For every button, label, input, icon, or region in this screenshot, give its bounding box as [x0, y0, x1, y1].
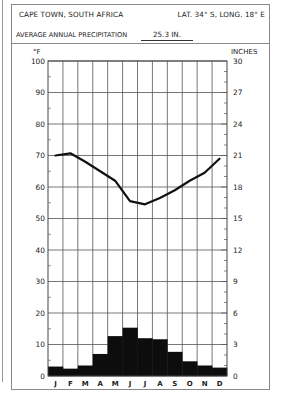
fahrenheit-tick-label: 90 — [36, 88, 46, 97]
month-label: J — [143, 380, 147, 388]
fahrenheit-tick-label: 50 — [36, 214, 46, 223]
fahrenheit-tick-label: 10 — [36, 340, 46, 349]
fahrenheit-tick-label: 30 — [36, 277, 46, 286]
fahrenheit-tick-label: 20 — [36, 309, 46, 318]
month-label: F — [68, 380, 73, 388]
precipitation-bar — [167, 352, 182, 376]
fahrenheit-tick-label: 40 — [36, 246, 46, 255]
climate-chart: 0102030405060708090100036912151821242730… — [0, 0, 283, 402]
inches-tick-label: 0 — [233, 372, 238, 381]
inches-tick-label: 24 — [233, 120, 243, 129]
fahrenheit-tick-label: 80 — [36, 120, 46, 129]
precipitation-bar — [93, 354, 108, 376]
precipitation-bar — [123, 328, 138, 376]
fahrenheit-tick-label: 0 — [40, 372, 45, 381]
inches-tick-label: 21 — [233, 151, 243, 160]
precipitation-bars — [48, 328, 227, 376]
inches-tick-label: 6 — [233, 309, 238, 318]
precipitation-bar — [182, 361, 197, 376]
precipitation-bar — [138, 338, 153, 376]
inches-tick-label: 18 — [233, 183, 243, 192]
fahrenheit-tick-label: 70 — [36, 151, 46, 160]
month-label: M — [112, 380, 119, 388]
inches-tick-label: 9 — [233, 277, 238, 286]
inches-tick-label: 30 — [233, 57, 243, 66]
precipitation-bar — [63, 369, 78, 376]
inches-tick-label: 12 — [233, 246, 242, 255]
inches-tick-label: 27 — [233, 88, 243, 97]
month-label: A — [97, 380, 103, 388]
month-label: N — [202, 380, 208, 388]
month-label: A — [157, 380, 163, 388]
month-label: J — [128, 380, 132, 388]
month-label: S — [172, 380, 177, 388]
precipitation-bar — [212, 368, 227, 376]
precipitation-bar — [152, 339, 167, 376]
inches-tick-label: 3 — [233, 340, 238, 349]
precipitation-bar — [48, 367, 63, 376]
precipitation-bar — [108, 336, 123, 376]
fahrenheit-tick-label: 100 — [31, 57, 45, 66]
inches-tick-label: 15 — [233, 214, 243, 223]
precipitation-bar — [78, 366, 93, 377]
month-label: D — [217, 380, 223, 388]
fahrenheit-tick-label: 60 — [36, 183, 46, 192]
month-label: J — [53, 380, 57, 388]
month-label: O — [187, 380, 193, 388]
precipitation-bar — [197, 366, 212, 377]
month-label: M — [82, 380, 89, 388]
